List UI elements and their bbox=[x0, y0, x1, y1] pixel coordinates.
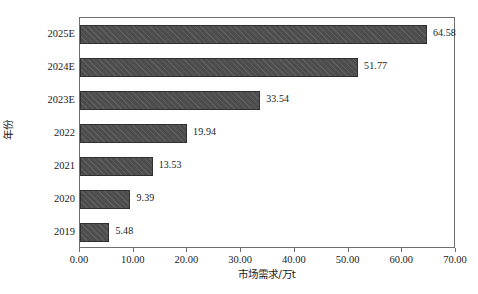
bar[interactable] bbox=[80, 91, 260, 110]
bar-row: 64.58 bbox=[80, 18, 454, 51]
bar-value-label: 9.39 bbox=[136, 191, 154, 204]
bar[interactable] bbox=[80, 124, 187, 143]
y-axis-tick-label: 2021 bbox=[5, 160, 75, 172]
bar[interactable] bbox=[80, 58, 358, 77]
bar-row: 9.39 bbox=[80, 183, 454, 216]
x-axis-tick-label: 30.00 bbox=[228, 254, 252, 266]
x-axis-tick-label: 70.00 bbox=[443, 254, 467, 266]
x-axis-tick-label: 0.00 bbox=[70, 254, 88, 266]
bar-chart: 年份 2025E2024E2023E2022202120202019 64.58… bbox=[0, 0, 478, 294]
y-axis-tick-label: 2024E bbox=[5, 61, 75, 73]
bar[interactable] bbox=[80, 223, 109, 242]
x-axis-tick-mark bbox=[294, 248, 295, 252]
y-axis-tick-labels: 2025E2024E2023E2022202120202019 bbox=[3, 17, 75, 248]
x-axis-tick-mark bbox=[186, 248, 187, 252]
y-axis-tick-label: 2020 bbox=[5, 193, 75, 205]
bar[interactable] bbox=[80, 25, 427, 44]
bar-value-label: 13.53 bbox=[159, 158, 182, 171]
x-axis-tick-label: 20.00 bbox=[175, 254, 199, 266]
y-axis-tick-label: 2019 bbox=[5, 226, 75, 238]
bar-value-label: 64.58 bbox=[433, 26, 456, 39]
bar-row: 51.77 bbox=[80, 51, 454, 84]
plot-area: 64.5851.7733.5419.9413.539.395.48 bbox=[79, 17, 455, 248]
bar-row: 5.48 bbox=[80, 216, 454, 249]
bar-value-label: 5.48 bbox=[115, 224, 133, 237]
x-axis-tick-mark bbox=[133, 248, 134, 252]
bar[interactable] bbox=[80, 157, 153, 176]
x-axis-tick-mark bbox=[79, 248, 80, 252]
bars-layer: 64.5851.7733.5419.9413.539.395.48 bbox=[80, 18, 454, 247]
x-axis-tick-label: 10.00 bbox=[121, 254, 145, 266]
x-axis-tick-mark bbox=[401, 248, 402, 252]
bar-row: 19.94 bbox=[80, 117, 454, 150]
bar-row: 13.53 bbox=[80, 150, 454, 183]
y-axis-tick-label: 2023E bbox=[5, 94, 75, 106]
bar-row: 33.54 bbox=[80, 84, 454, 117]
x-axis-tick-mark bbox=[455, 248, 456, 252]
x-axis-tick-mark bbox=[348, 248, 349, 252]
x-axis-tick-label: 40.00 bbox=[282, 254, 306, 266]
x-axis-title: 市场需求/万t bbox=[79, 268, 455, 281]
bar-value-label: 33.54 bbox=[266, 92, 289, 105]
bar[interactable] bbox=[80, 190, 130, 209]
x-axis-tick-label: 50.00 bbox=[336, 254, 360, 266]
x-axis-tick-mark bbox=[240, 248, 241, 252]
bar-value-label: 51.77 bbox=[364, 59, 387, 72]
x-axis-tick-label: 60.00 bbox=[389, 254, 413, 266]
y-axis-tick-label: 2022 bbox=[5, 127, 75, 139]
y-axis-tick-label: 2025E bbox=[5, 28, 75, 40]
bar-value-label: 19.94 bbox=[193, 125, 216, 138]
x-axis-ticks: 0.0010.0020.0030.0040.0050.0060.0070.00 bbox=[79, 248, 455, 270]
